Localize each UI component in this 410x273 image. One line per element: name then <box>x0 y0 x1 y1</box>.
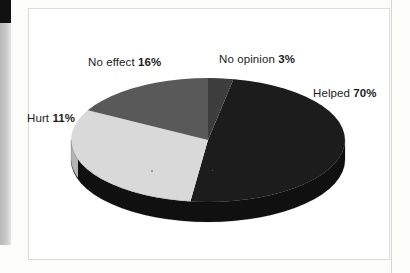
data-label-hurt: Hurt 11% <box>27 113 75 125</box>
scan-speckle <box>151 170 153 172</box>
pie-chart-graphic <box>0 0 410 273</box>
data-label-no-effect-percent: 16% <box>138 56 161 68</box>
data-label-no-effect-text: No effect <box>88 56 135 68</box>
data-label-helped: Helped 70% <box>313 88 377 100</box>
data-label-hurt-text: Hurt <box>27 112 49 124</box>
data-label-no-opinion-text: No opinion <box>219 53 275 65</box>
data-label-hurt-percent: 11% <box>52 112 75 124</box>
page-background: No effect 16% No opinion 3% Helped 70% H… <box>0 0 410 273</box>
data-label-helped-text: Helped <box>313 87 350 99</box>
pie-chart: No effect 16% No opinion 3% Helped 70% H… <box>0 0 410 273</box>
data-label-no-opinion: No opinion 3% <box>219 54 295 66</box>
data-label-helped-percent: 70% <box>353 87 376 99</box>
data-label-no-opinion-percent: 3% <box>278 53 295 65</box>
scan-speckle <box>212 170 213 171</box>
data-label-no-effect: No effect 16% <box>88 57 161 69</box>
